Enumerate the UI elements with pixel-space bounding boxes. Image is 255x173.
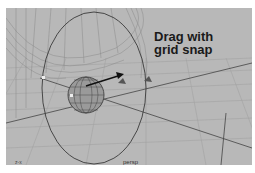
scene-canvas[interactable] [6, 8, 252, 165]
manipulator-handle[interactable] [118, 78, 126, 84]
axis-indicator-icon: z-x [15, 159, 22, 165]
camera-label: persp [123, 159, 138, 165]
annotation-line: grid snap [154, 43, 213, 56]
pivot-point[interactable] [42, 76, 45, 79]
3d-viewport[interactable]: Drag with grid snap persp z-x [6, 8, 252, 165]
drag-annotation: Drag with grid snap [154, 30, 213, 56]
pivot-point[interactable] [70, 94, 73, 97]
